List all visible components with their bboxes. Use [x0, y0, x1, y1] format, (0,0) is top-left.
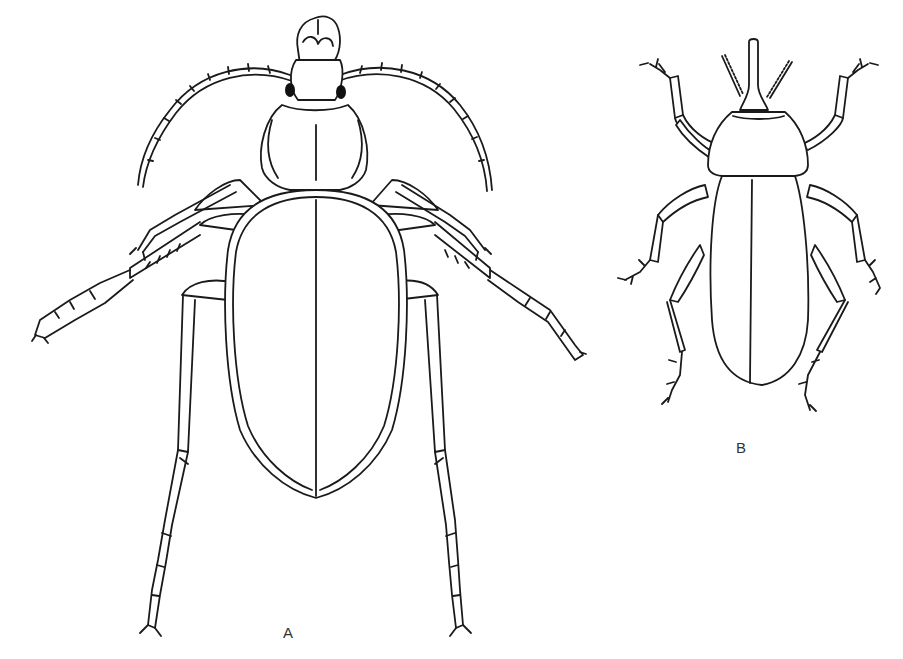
- panel-label-b: B: [736, 439, 747, 456]
- beetle-b: [618, 39, 880, 411]
- beetle-illustration: [0, 0, 903, 659]
- beetle-a: [32, 16, 586, 636]
- eye-left-icon: [285, 83, 295, 97]
- beetle-b-pronotum: [708, 112, 808, 176]
- beetle-b-antenna-right: [770, 62, 792, 98]
- eye-right-icon: [336, 85, 346, 99]
- panel-label-a: A: [283, 624, 294, 641]
- beetle-b-rostrum: [740, 39, 768, 110]
- beetle-b-antenna-left: [722, 56, 740, 96]
- beetle-a-head: [285, 16, 346, 100]
- beetle-a-elytra: [225, 190, 407, 498]
- beetle-b-elytra: [710, 176, 808, 385]
